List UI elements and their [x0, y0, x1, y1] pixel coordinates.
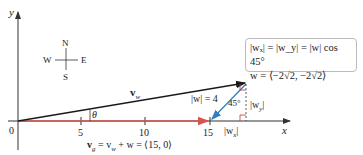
vg-equation: vg = vw + w = ⟨15, 0⟩: [87, 139, 172, 153]
wx-label: |wx|: [224, 125, 238, 139]
compass-n: N: [62, 38, 69, 48]
right-angle-bottom: [240, 115, 246, 121]
x-axis-label: x: [281, 124, 287, 136]
tick-label-5: 5: [78, 127, 83, 138]
wy-label: |wy|: [250, 99, 264, 113]
tick-label-15: 15: [203, 127, 213, 138]
info-line-2: w = ⟨−2√2, −2√2⟩: [250, 69, 352, 83]
y-axis-label: y: [8, 6, 14, 18]
info-box: |wₓ| = |w_y| = |w| cos 45° w = ⟨−2√2, −2…: [245, 38, 357, 72]
tick-label-10: 10: [139, 127, 149, 138]
info-line-1: |wₓ| = |w_y| = |w| cos 45°: [250, 41, 352, 69]
compass-s: S: [63, 72, 68, 82]
compass-icon: N S W E: [43, 38, 87, 82]
theta-label: θ: [92, 109, 97, 120]
angle-45-label: 45°: [228, 98, 241, 108]
w-magnitude-label: |w| = 4: [191, 93, 218, 104]
vw-label: vw: [130, 86, 141, 101]
compass-e: E: [81, 55, 87, 65]
compass-w: W: [43, 55, 52, 65]
origin-label: 0: [9, 125, 14, 136]
